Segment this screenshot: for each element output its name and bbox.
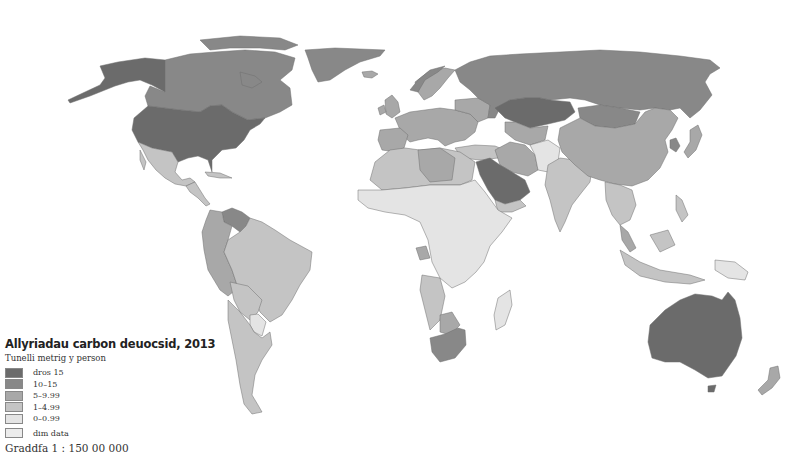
- region-uk: [385, 95, 400, 118]
- region-japan: [684, 125, 702, 158]
- region-ireland: [378, 105, 386, 115]
- legend-label: 5–9.99: [33, 391, 60, 400]
- region-malay-peninsula: [620, 225, 636, 252]
- region-canada-islands: [200, 36, 298, 50]
- region-korea: [670, 138, 680, 152]
- swatch-5-9-99: [5, 391, 23, 401]
- legend-label: 0–0.99: [33, 414, 60, 423]
- region-central-america: [186, 182, 210, 206]
- legend-subtitle: Tunelli metrig y person: [5, 353, 220, 363]
- swatch-no-data: [5, 428, 23, 438]
- swatch-0-0-99: [5, 414, 23, 424]
- region-iceland: [362, 71, 378, 78]
- map-scale: Graddfa 1 : 150 00 000: [5, 442, 220, 454]
- region-south-africa: [430, 328, 466, 362]
- legend-item-5-9-99: 5–9.99: [5, 390, 220, 402]
- swatch-over-15: [5, 368, 23, 378]
- legend-label: dros 15: [33, 368, 64, 377]
- region-indonesia: [620, 230, 705, 284]
- legend-item-no-data: dim data: [5, 428, 220, 440]
- region-southeast-asia: [605, 182, 636, 225]
- region-australia: [648, 292, 742, 392]
- region-new-zealand: [758, 366, 780, 395]
- region-new-guinea: [715, 260, 748, 280]
- region-philippines: [676, 195, 688, 222]
- region-western-europe: [395, 108, 478, 146]
- legend-item-0-0-99: 0–0.99: [5, 413, 220, 425]
- legend-item-10-15: 10–15: [5, 379, 220, 391]
- region-madagascar: [494, 290, 512, 330]
- legend-item-1-4-99: 1–4.99: [5, 402, 220, 414]
- legend-label: dim data: [33, 429, 69, 438]
- legend-label: 10–15: [33, 380, 57, 389]
- legend-items: dros 15 10–15 5–9.99 1–4.99 0–0.99 dim d…: [5, 367, 220, 439]
- legend-label: 1–4.99: [33, 403, 60, 412]
- swatch-10-15: [5, 379, 23, 389]
- region-cuba: [205, 172, 232, 178]
- legend: Allyriadau carbon deuocsid, 2013 Tunelli…: [5, 337, 220, 454]
- legend-item-over-15: dros 15: [5, 367, 220, 379]
- region-gabon: [416, 246, 430, 260]
- swatch-1-4-99: [5, 402, 23, 412]
- legend-title: Allyriadau carbon deuocsid, 2013: [5, 337, 220, 351]
- region-west-central-africa: [358, 180, 512, 288]
